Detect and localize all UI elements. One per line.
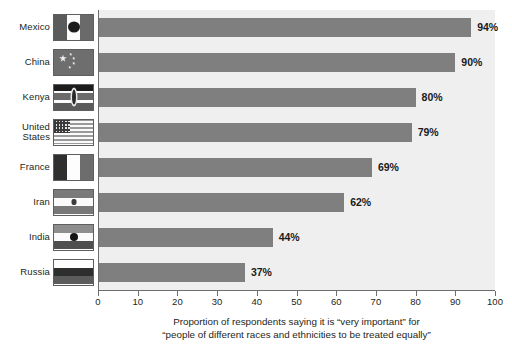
x-axis-tick-label: 30 [212, 296, 223, 307]
category-axis: Mexico China Kenya United StatesFrance I… [0, 10, 98, 290]
category-label: Iran [33, 197, 53, 208]
flag-star [62, 131, 64, 133]
flag-star [62, 124, 64, 126]
category-label: Russia [20, 267, 53, 278]
flag-star [68, 124, 70, 126]
category-row: United States [0, 115, 98, 149]
x-axis-tick-label: 50 [291, 296, 302, 307]
flag-star [65, 121, 67, 123]
flag-united-states-icon [53, 119, 94, 146]
bar-value-label: 79% [418, 123, 439, 142]
bar-chart: Mexico China Kenya United StatesFrance I… [0, 0, 512, 351]
bar-value-label: 94% [477, 18, 498, 37]
bar [98, 18, 471, 37]
category-row: France [0, 150, 98, 184]
flag-stripe [54, 225, 93, 233]
category-label: China [25, 57, 53, 68]
flag-star [68, 127, 70, 129]
flag-star [62, 121, 64, 123]
bar [98, 88, 416, 107]
flag-star [59, 124, 61, 126]
flag-star [68, 121, 70, 123]
flag-star [56, 127, 58, 129]
flag-stripe [54, 190, 93, 198]
flag-star [59, 131, 61, 133]
flag-india-icon [53, 224, 94, 251]
flag-star [56, 124, 58, 126]
flag-star [62, 127, 64, 129]
flag-emblem-center [72, 90, 76, 105]
bar-value-label: 37% [251, 263, 272, 282]
category-row: China [0, 45, 98, 79]
flag-emblem-chakra [70, 233, 78, 241]
bar-value-label: 44% [279, 228, 300, 247]
flag-emblem [68, 22, 80, 33]
x-axis-tick-label: 20 [172, 296, 183, 307]
category-row: Kenya [0, 80, 98, 114]
flag-stripe [54, 268, 93, 276]
flag-russia-icon [53, 259, 94, 286]
category-row: Russia [0, 255, 98, 289]
x-axis-tick-label: 80 [410, 296, 421, 307]
x-axis-tick-label: 0 [95, 296, 100, 307]
flag-kenya-icon [53, 84, 94, 111]
flag-stripe [54, 260, 93, 268]
flag-star [59, 121, 61, 123]
bar [98, 193, 344, 212]
chart-caption: Proportion of respondents saying it is “… [98, 316, 495, 341]
category-label: United States [22, 122, 53, 143]
x-axis-tick-label: 100 [487, 296, 503, 307]
bar [98, 158, 372, 177]
flag-star [68, 131, 70, 133]
flag-iran-icon [53, 189, 94, 216]
x-axis-tick-label: 40 [252, 296, 263, 307]
flag-star [59, 127, 61, 129]
flag-stripe [80, 15, 93, 40]
category-label: Mexico [19, 22, 53, 33]
flag-stripe [80, 155, 93, 180]
bar [98, 53, 455, 72]
flag-france-icon [53, 154, 94, 181]
flag-stripe [54, 276, 93, 284]
x-axis-tick-label: 60 [331, 296, 342, 307]
flag-emblem [71, 199, 76, 205]
flag-stripe [54, 155, 67, 180]
flag-field [54, 50, 93, 75]
y-axis-line [98, 10, 99, 291]
x-axis-tick-label: 10 [132, 296, 143, 307]
category-label: India [29, 232, 53, 243]
flag-star [65, 131, 67, 133]
flag-star [56, 131, 58, 133]
bar-value-label: 80% [422, 88, 443, 107]
flag-stripe [54, 143, 93, 145]
flag-stripe [54, 241, 93, 249]
flag-stripe [67, 155, 80, 180]
flag-star [65, 124, 67, 126]
category-label: Kenya [23, 92, 53, 103]
bar [98, 263, 245, 282]
flag-star [65, 127, 67, 129]
category-row: Mexico [0, 10, 98, 44]
bar-value-label: 69% [378, 158, 399, 177]
x-axis-tick-label: 90 [450, 296, 461, 307]
bar [98, 228, 273, 247]
flag-stripe [54, 206, 93, 214]
bar-value-label: 62% [350, 193, 371, 212]
flag-stripe [54, 15, 67, 40]
category-row: India [0, 220, 98, 254]
caption-line: Proportion of respondents saying it is “… [98, 316, 495, 329]
bar [98, 123, 412, 142]
flag-star [56, 121, 58, 123]
flag-mexico-icon [53, 14, 94, 41]
category-row: Iran [0, 185, 98, 219]
flag-china-icon [53, 49, 94, 76]
bar-value-label: 90% [461, 53, 482, 72]
x-axis-tick-label: 70 [371, 296, 382, 307]
category-label: France [20, 162, 53, 173]
plot-area: 94%90%80%79%69%62%44%37% [98, 10, 495, 290]
caption-line: “people of different races and ethniciti… [98, 329, 495, 342]
